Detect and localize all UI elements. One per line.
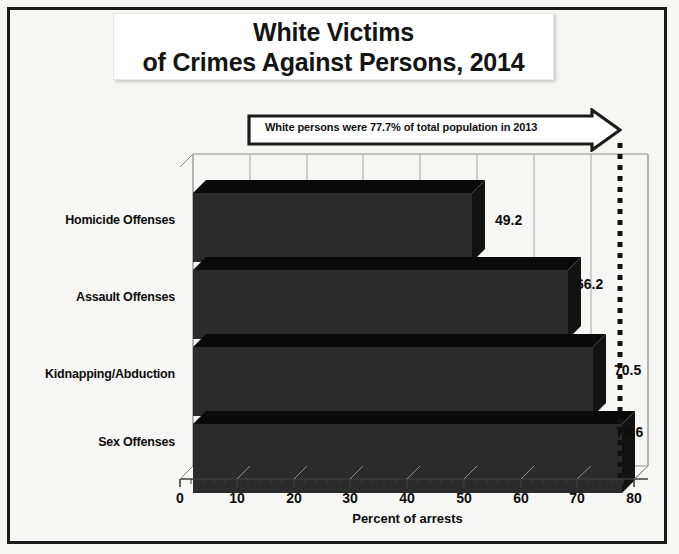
xtick-label-2: 20 bbox=[274, 490, 314, 506]
x-axis-title: Percent of arrests bbox=[180, 511, 635, 526]
chart-title-box: White Victims of Crimes Against Persons,… bbox=[113, 13, 554, 80]
callout-annotation: White persons were 77.7% of total popula… bbox=[247, 108, 622, 152]
bar-homicide-offenses bbox=[193, 180, 485, 262]
value-label-1: 66.2 bbox=[576, 276, 603, 292]
chart-image: Homicide Offenses Assault Offenses Kidna… bbox=[0, 0, 679, 554]
category-label-3: Sex Offenses bbox=[0, 435, 175, 449]
xtick-label-6: 60 bbox=[501, 490, 541, 506]
value-label-3: 75.6 bbox=[616, 424, 643, 440]
value-label-0: 49.2 bbox=[495, 212, 522, 228]
xtick-label-3: 30 bbox=[330, 490, 370, 506]
xtick-label-0: 0 bbox=[160, 490, 200, 506]
callout-text: White persons were 77.7% of total popula… bbox=[265, 121, 585, 133]
xtick-label-8: 80 bbox=[614, 490, 654, 506]
xtick-label-5: 50 bbox=[444, 490, 484, 506]
xtick-label-7: 70 bbox=[557, 490, 597, 506]
category-label-1: Assault Offenses bbox=[0, 290, 175, 304]
category-label-2: Kidnapping/Abduction bbox=[0, 367, 175, 381]
xtick-label-4: 40 bbox=[387, 490, 427, 506]
value-label-2: 70.5 bbox=[614, 362, 641, 378]
bar-assault-offenses bbox=[193, 257, 581, 339]
chart-title-line-1: White Victims bbox=[253, 17, 414, 47]
chart-title-line-2: of Crimes Against Persons, 2014 bbox=[143, 47, 525, 77]
bar-kidnapping-abduction bbox=[193, 334, 606, 416]
xtick-label-1: 10 bbox=[217, 490, 257, 506]
category-label-0: Homicide Offenses bbox=[0, 213, 175, 227]
